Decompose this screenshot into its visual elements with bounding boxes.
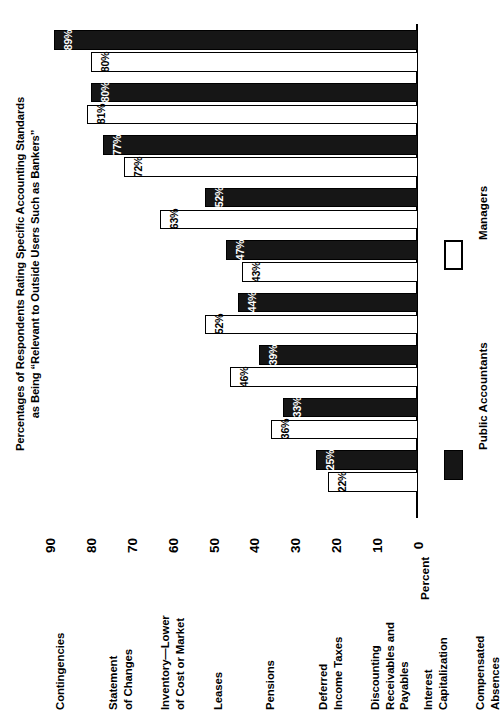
bar-value-label: 46% bbox=[238, 366, 250, 387]
category-label-line: of Changes bbox=[120, 649, 135, 710]
bar-group: 39%46% bbox=[50, 345, 418, 387]
bar-value-label: 52% bbox=[214, 187, 226, 208]
bar-group: 47%43% bbox=[50, 240, 418, 282]
category-label-line: Contingencies bbox=[53, 633, 68, 710]
legend-swatch bbox=[444, 240, 463, 270]
bar-value-label: 72% bbox=[132, 156, 144, 177]
bar-group: 25%22% bbox=[50, 450, 418, 492]
value-axis-title-text: Percent bbox=[418, 557, 432, 600]
bar-value-label: 52% bbox=[214, 314, 226, 335]
bar-public-accountants: 80% bbox=[91, 83, 418, 103]
bar-group: 33%36% bbox=[50, 398, 418, 440]
bar-value-label: 33% bbox=[291, 397, 303, 418]
category-label-line: Payables bbox=[397, 622, 412, 710]
category-label-line: of Cost or Market bbox=[173, 615, 188, 710]
bar-value-label: 77% bbox=[111, 134, 123, 155]
category-label-line: Receivables and bbox=[383, 622, 398, 710]
bar-public-accountants: 44% bbox=[238, 293, 418, 313]
bar-public-accountants: 33% bbox=[283, 398, 418, 418]
chart-legend: Public AccountantsManagers bbox=[432, 150, 488, 510]
bar-value-label: 47% bbox=[234, 239, 246, 260]
category-label-line: Capitalization bbox=[435, 637, 450, 710]
bar-managers: 80% bbox=[91, 52, 418, 72]
category-label-line: Inventory—Lower bbox=[158, 615, 173, 710]
bar-value-label: 81% bbox=[95, 104, 107, 125]
bar-value-label: 89% bbox=[62, 29, 74, 50]
category-label-line: Leases bbox=[211, 672, 226, 710]
category-label-line: Statement bbox=[106, 649, 121, 710]
bar-managers: 52% bbox=[205, 315, 418, 335]
bar-value-label: 63% bbox=[169, 209, 181, 230]
bar-managers: 43% bbox=[242, 262, 418, 282]
bar-managers: 72% bbox=[124, 157, 418, 177]
bar-managers: 46% bbox=[230, 367, 418, 387]
bar-value-label: 80% bbox=[99, 82, 111, 103]
bar-group: 89%80% bbox=[50, 30, 418, 72]
bar-group: 52%63% bbox=[50, 188, 418, 230]
legend-label: Public Accountants bbox=[476, 342, 489, 450]
bar-public-accountants: 25% bbox=[316, 450, 418, 470]
category-axis-labels: ContingenciesStatementof ChangesInventor… bbox=[50, 520, 418, 716]
legend-label: Managers bbox=[476, 186, 489, 240]
bar-public-accountants: 39% bbox=[259, 345, 418, 365]
bar-managers: 81% bbox=[87, 105, 418, 125]
category-label-line: Interest bbox=[421, 637, 436, 710]
bar-managers: 36% bbox=[271, 420, 418, 440]
bar-value-label: 36% bbox=[279, 419, 291, 440]
bar-group: 80%81% bbox=[50, 83, 418, 125]
chart-title: Percentages of Respondents Rating Specif… bbox=[6, 0, 50, 560]
bar-value-label: 39% bbox=[267, 344, 279, 365]
legend-swatch bbox=[444, 450, 463, 480]
bar-value-label: 22% bbox=[336, 471, 348, 492]
bar-value-label: 25% bbox=[324, 449, 336, 470]
bar-managers: 63% bbox=[160, 210, 418, 230]
category-label-line: Pensions bbox=[263, 660, 278, 710]
category-label-line: Absences bbox=[488, 636, 502, 710]
category-label-line: Compensated bbox=[473, 636, 488, 710]
category-label-line: Deferred bbox=[316, 637, 331, 710]
bar-managers: 22% bbox=[328, 472, 418, 492]
category-label-line: Income Taxes bbox=[330, 637, 345, 710]
bar-public-accountants: 47% bbox=[226, 240, 418, 260]
chart-title-line-1: Percentages of Respondents Rating Specif… bbox=[13, 97, 29, 451]
bar-value-label: 80% bbox=[99, 51, 111, 72]
bar-public-accountants: 89% bbox=[54, 30, 418, 50]
bar-public-accountants: 52% bbox=[205, 188, 418, 208]
plot-area: 89%80%80%81%77%72%52%63%47%43%44%52%39%4… bbox=[50, 30, 418, 512]
category-label-line: Discounting bbox=[368, 622, 383, 710]
bar-group: 77%72% bbox=[50, 135, 418, 177]
bar-public-accountants: 77% bbox=[103, 135, 418, 155]
bar-value-label: 44% bbox=[246, 292, 258, 313]
chart-title-line-2: as Being “Relevant to Outside Users Such… bbox=[28, 130, 44, 419]
bar-group: 44%52% bbox=[50, 293, 418, 335]
bar-value-label: 43% bbox=[250, 261, 262, 282]
